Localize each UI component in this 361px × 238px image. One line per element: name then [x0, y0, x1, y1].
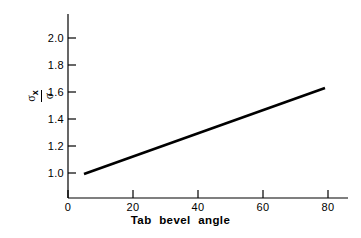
y-axis-label-numerator: σx	[25, 87, 41, 104]
x-tick-label-0: 0	[65, 202, 71, 213]
y-tick-label-1.8: 1.8	[42, 60, 64, 71]
y-axis-label: σx σ	[14, 70, 66, 122]
x-tick-label-80: 80	[322, 202, 335, 213]
x-axis-label: Tab bevel angle	[0, 214, 361, 226]
y-axis-label-fraction: σx σ	[25, 87, 55, 104]
x-tick-label-40: 40	[192, 202, 205, 213]
data-line-series-0	[84, 88, 325, 174]
y-tick-label-1.2: 1.2	[42, 141, 64, 152]
subscript-x: x	[30, 90, 40, 95]
chart-figure: 2.0 1.8 1.6 1.4 1.2 1.0 0 20 40 60 80 Ta…	[0, 0, 361, 238]
y-tick-label-1.0: 1.0	[42, 168, 64, 179]
x-tick-label-20: 20	[127, 202, 140, 213]
x-tick-label-60: 60	[257, 202, 270, 213]
sigma-symbol-numerator: σ	[24, 95, 38, 101]
y-axis-label-denominator: σ	[41, 90, 55, 102]
y-tick-label-2.0: 2.0	[42, 33, 64, 44]
